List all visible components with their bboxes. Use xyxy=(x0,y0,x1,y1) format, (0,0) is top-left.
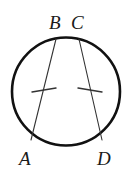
point-label-c: C xyxy=(71,13,84,32)
point-label-b: B xyxy=(49,13,61,32)
point-label-d: D xyxy=(97,149,111,168)
point-label-a: A xyxy=(19,149,31,168)
circle-outline xyxy=(12,38,120,146)
